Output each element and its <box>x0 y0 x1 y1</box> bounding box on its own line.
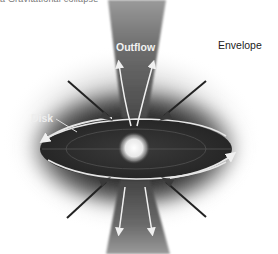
outflow-label: Outflow <box>116 41 155 53</box>
envelope-label: Envelope <box>218 39 262 51</box>
disk-label: Disk <box>31 112 53 124</box>
protostar-diagram: a Gravitational collapse Outflow Envelop… <box>0 0 278 254</box>
protostar <box>118 132 150 164</box>
figure-caption-clipped: a Gravitational collapse <box>0 0 98 4</box>
